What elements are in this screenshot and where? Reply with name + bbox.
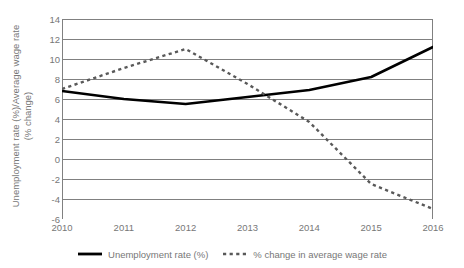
x-tick-label: 2013	[237, 222, 258, 233]
y-tick-label: 10	[49, 54, 60, 65]
x-tick-label: 2010	[51, 222, 72, 233]
legend-entry[interactable]: % change in average wage rate	[222, 249, 387, 260]
line-chart: Unemployment rate (%)/Average wage rate …	[0, 0, 464, 268]
y-tick-label: 8	[55, 74, 60, 85]
y-tick-label: -2	[52, 174, 60, 185]
chart-legend: Unemployment rate (%)% change in average…	[0, 244, 464, 264]
legend-label: % change in average wage rate	[253, 249, 387, 260]
gridlines	[62, 19, 433, 219]
y-tick-label: 6	[55, 94, 60, 105]
series-line-0	[62, 47, 433, 104]
legend-label: Unemployment rate (%)	[108, 249, 208, 260]
y-axis-title-line-2: (% change)	[22, 25, 34, 208]
x-tick-label: 2012	[175, 222, 196, 233]
solid-line-swatch	[77, 249, 103, 259]
x-tick-label: 2011	[114, 222, 134, 233]
x-tick-label: 2016	[422, 222, 443, 233]
plot-area	[62, 19, 433, 219]
y-tick-label: -4	[52, 194, 60, 205]
y-tick-label: 4	[55, 114, 60, 125]
x-tick-label: 2014	[299, 222, 320, 233]
y-axis-tick-labels: -6-4-202468101214	[36, 0, 60, 232]
plot-svg	[62, 19, 433, 219]
legend-entry[interactable]: Unemployment rate (%)	[77, 249, 208, 260]
x-axis-tick-labels: 2010201120122013201420152016	[62, 222, 433, 238]
series-layer	[62, 47, 433, 209]
y-tick-label: 14	[49, 14, 60, 25]
dashed-line-swatch	[222, 249, 248, 259]
x-tick-label: 2015	[361, 222, 382, 233]
y-tick-label: 12	[49, 34, 60, 45]
y-tick-label: 2	[55, 134, 60, 145]
y-axis-title-line-1: Unemployment rate (%)/Average wage rate	[10, 25, 22, 208]
y-tick-label: 0	[55, 154, 60, 165]
